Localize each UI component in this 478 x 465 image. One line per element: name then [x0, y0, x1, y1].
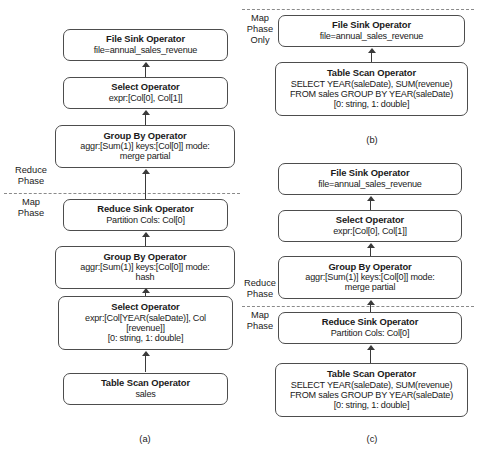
- operator-title: File Sink Operator: [68, 34, 223, 45]
- arrow-shaft: [145, 356, 147, 372]
- operator-detail-line2: FROM sales GROUP BY YEAR(saleDate): [280, 390, 463, 400]
- operator-detail: expr:[Col[0], Col[1]]: [68, 93, 223, 103]
- operator-detail-line1: SELECT YEAR(saleDate), SUM(revenue): [280, 380, 463, 390]
- panel-c-arrow-tablescan-to-reducesink: [365, 345, 376, 363]
- operator-detail-line3: [0: string, 1: double]: [63, 333, 228, 343]
- phase-label-line1: Map: [242, 13, 278, 24]
- operator-title: Group By Operator: [283, 262, 457, 273]
- panel-a-arrow-groupbyhash-to-reducesink: [140, 232, 151, 246]
- panel-b-node-file-sink[interactable]: File Sink Operator file=annual_sales_rev…: [278, 15, 465, 47]
- panel-a-arrow-groupby-to-select: [140, 110, 151, 125]
- phase-label-line3: Only: [242, 35, 278, 46]
- panel-a-phase-label-reduce: Reduce Phase: [5, 165, 57, 187]
- panel-a-arrow-reducesink-to-groupby: [140, 169, 151, 199]
- panel-c-phase-label-map: Map Phase: [240, 310, 280, 332]
- panel-c-node-select[interactable]: Select Operator expr:[Col[0], Col[1]]: [278, 210, 462, 242]
- arrow-shaft: [370, 201, 372, 210]
- operator-detail: expr:[Col[0], Col[1]]: [283, 226, 457, 236]
- phase-label-line1: Map: [240, 310, 280, 321]
- operator-detail-line2: merge partial: [60, 151, 230, 161]
- arrow-shaft: [145, 237, 147, 246]
- panel-c-node-reduce-sink[interactable]: Reduce Sink Operator Partition Cols: Col…: [278, 312, 462, 344]
- operator-title: Select Operator: [283, 215, 457, 226]
- operator-detail-line1: expr:[Col[YEAR(saleDate)], Col: [63, 313, 228, 323]
- phase-label-line1: Reduce: [240, 278, 280, 289]
- operator-title: Select Operator: [68, 82, 223, 93]
- panel-a-node-select-expr[interactable]: Select Operator expr:[Col[YEAR(saleDate)…: [58, 296, 233, 350]
- operator-detail: sales: [68, 389, 223, 399]
- arrow-shaft: [370, 248, 372, 256]
- panel-c-node-file-sink[interactable]: File Sink Operator file=annual_sales_rev…: [278, 163, 462, 195]
- panel-a: Reduce Phase Map Phase File Sink Operato…: [0, 0, 240, 465]
- panel-a-node-table-scan[interactable]: Table Scan Operator sales: [63, 373, 228, 405]
- panel-c-phase-divider: [242, 306, 474, 307]
- phase-label-line2: Phase: [5, 176, 57, 187]
- operator-detail-line2: merge partial: [283, 282, 457, 292]
- operator-title: Table Scan Operator: [280, 68, 463, 79]
- operator-title: Reduce Sink Operator: [283, 317, 457, 328]
- operator-detail-line3: [0: string, 1: double]: [280, 99, 463, 109]
- operator-title: Group By Operator: [60, 252, 230, 263]
- operator-detail: file=annual_sales_revenue: [68, 45, 223, 55]
- phase-label-line2: Phase: [242, 24, 278, 35]
- panel-a-arrow-select-to-filesink: [140, 62, 151, 77]
- operator-detail-line2: FROM sales GROUP BY YEAR(saleDate): [280, 89, 463, 99]
- operator-title: Table Scan Operator: [280, 369, 463, 380]
- operator-detail: Partition Cols: Col[0]: [68, 215, 223, 225]
- phase-label-line1: Map: [5, 197, 57, 208]
- operator-detail-line1: aggr:[Sum(1)] keys:[Col[0]] mode:: [283, 272, 457, 282]
- panel-c-node-groupby-merge[interactable]: Group By Operator aggr:[Sum(1)] keys:[Co…: [278, 256, 462, 299]
- operator-detail-line1: aggr:[Sum(1)] keys:[Col[0]] mode:: [60, 141, 230, 151]
- panel-a-phase-divider: [4, 193, 240, 194]
- operator-detail-line1: SELECT YEAR(saleDate), SUM(revenue): [280, 79, 463, 89]
- panel-c-arrow-groupby-to-select: [365, 243, 376, 256]
- panel-a-node-select[interactable]: Select Operator expr:[Col[0], Col[1]]: [63, 77, 228, 109]
- panel-a-caption: (a): [125, 434, 165, 444]
- arrow-shaft: [370, 305, 372, 312]
- panel-b-caption: (b): [352, 135, 392, 145]
- panel-a-phase-label-map: Map Phase: [5, 197, 57, 219]
- operator-detail: file=annual_sales_revenue: [283, 31, 460, 41]
- panel-a-arrow-tablescan-to-select: [140, 351, 151, 372]
- operator-detail-line1: aggr:[Sum(1)] keys:[Col[0]] mode:: [60, 262, 230, 272]
- panel-a-node-groupby-merge[interactable]: Group By Operator aggr:[Sum(1)] keys:[Co…: [55, 125, 235, 168]
- operator-detail-line2: [revenue]]: [63, 323, 228, 333]
- panel-b-arrow-tablescan-to-filesink: [366, 48, 377, 62]
- arrow-shaft: [371, 53, 373, 62]
- panel-b-node-table-scan[interactable]: Table Scan Operator SELECT YEAR(saleDate…: [275, 62, 468, 116]
- arrow-shaft: [145, 67, 147, 77]
- operator-title: Reduce Sink Operator: [68, 204, 223, 215]
- arrow-shaft: [145, 174, 147, 199]
- operator-detail: Partition Cols: Col[0]: [283, 328, 457, 338]
- panel-a-node-reduce-sink[interactable]: Reduce Sink Operator Partition Cols: Col…: [63, 199, 228, 231]
- operator-detail-line3: [0: string, 1: double]: [280, 400, 463, 410]
- arrow-shaft: [370, 350, 372, 363]
- arrow-shaft: [145, 115, 147, 125]
- operator-title: File Sink Operator: [283, 168, 457, 179]
- operator-detail-line2: hash: [60, 272, 230, 282]
- panel-c-phase-label-reduce: Reduce Phase: [240, 278, 280, 300]
- panel-a-node-file-sink[interactable]: File Sink Operator file=annual_sales_rev…: [63, 29, 228, 61]
- phase-label-line1: Reduce: [5, 165, 57, 176]
- operator-title: Select Operator: [63, 302, 228, 313]
- panel-c-arrow-select-to-filesink: [365, 196, 376, 210]
- panel-b-phase-divider: [242, 9, 474, 10]
- figure-canvas: Reduce Phase Map Phase File Sink Operato…: [0, 0, 478, 465]
- panel-c-caption: (c): [352, 434, 392, 444]
- phase-label-line2: Phase: [240, 321, 280, 332]
- panel-c-arrow-reducesink-to-groupby: [365, 300, 376, 312]
- operator-detail: file=annual_sales_revenue: [283, 179, 457, 189]
- panel-bc-column: Map Phase Only File Sink Operator file=a…: [240, 0, 478, 465]
- operator-title: Group By Operator: [60, 131, 230, 142]
- operator-title: Table Scan Operator: [68, 378, 223, 389]
- phase-label-line2: Phase: [5, 208, 57, 219]
- panel-c-node-table-scan[interactable]: Table Scan Operator SELECT YEAR(saleDate…: [275, 363, 468, 417]
- operator-title: File Sink Operator: [283, 20, 460, 31]
- panel-a-node-groupby-hash[interactable]: Group By Operator aggr:[Sum(1)] keys:[Co…: [55, 246, 235, 289]
- panel-b-phase-label-map-only: Map Phase Only: [242, 13, 278, 46]
- phase-label-line2: Phase: [240, 289, 280, 300]
